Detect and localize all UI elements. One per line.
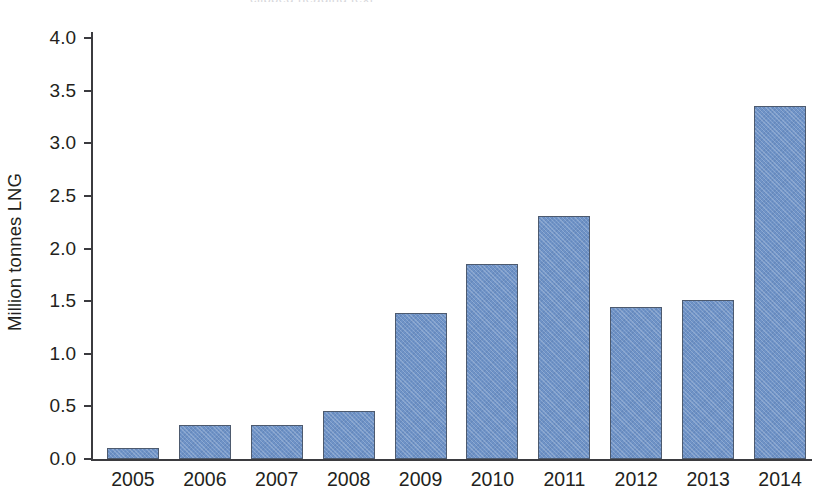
y-tick-mark [84, 405, 92, 407]
bar [395, 313, 447, 459]
bar [179, 425, 231, 459]
bar [107, 448, 159, 459]
bar [466, 264, 518, 459]
bar [754, 106, 806, 459]
x-axis-line [91, 459, 812, 461]
y-tick-label: 3.5 [30, 80, 76, 102]
y-tick-label: 2.0 [30, 238, 76, 260]
y-axis-title-text: Million tonnes LNG [4, 173, 26, 331]
y-tick-label: 4.0 [30, 27, 76, 49]
x-tick-label: 2011 [524, 468, 604, 491]
y-tick-mark [84, 458, 92, 460]
x-tick-label: 2006 [165, 468, 245, 491]
bar [323, 411, 375, 459]
bar [682, 300, 734, 459]
bar [610, 307, 662, 459]
plot-area [93, 38, 812, 459]
y-tick-label: 2.5 [30, 185, 76, 207]
y-tick-mark [84, 195, 92, 197]
x-tick-label: 2007 [237, 468, 317, 491]
x-tick-label: 2008 [309, 468, 389, 491]
y-tick-label: 3.0 [30, 132, 76, 154]
bar [538, 216, 590, 459]
y-tick-mark [84, 90, 92, 92]
x-tick-label: 2010 [452, 468, 532, 491]
y-tick-label: 0.5 [30, 395, 76, 417]
y-tick-label: 1.0 [30, 343, 76, 365]
bar [251, 425, 303, 459]
x-tick-label: 2012 [596, 468, 676, 491]
y-tick-mark [84, 300, 92, 302]
y-tick-label: 0.0 [30, 448, 76, 470]
x-tick-label: 2013 [668, 468, 748, 491]
y-axis-title: Million tonnes LNG [0, 0, 30, 504]
y-tick-mark [84, 142, 92, 144]
x-tick-label: 2009 [381, 468, 461, 491]
y-tick-mark [84, 248, 92, 250]
bar-chart: clipped heading text Million tonnes LNG … [0, 0, 827, 504]
clipped-title-remnant: clipped heading text [250, 0, 670, 2]
x-tick-label: 2005 [93, 468, 173, 491]
y-tick-mark [84, 37, 92, 39]
y-tick-label: 1.5 [30, 290, 76, 312]
x-tick-label: 2014 [740, 468, 820, 491]
y-tick-mark [84, 353, 92, 355]
